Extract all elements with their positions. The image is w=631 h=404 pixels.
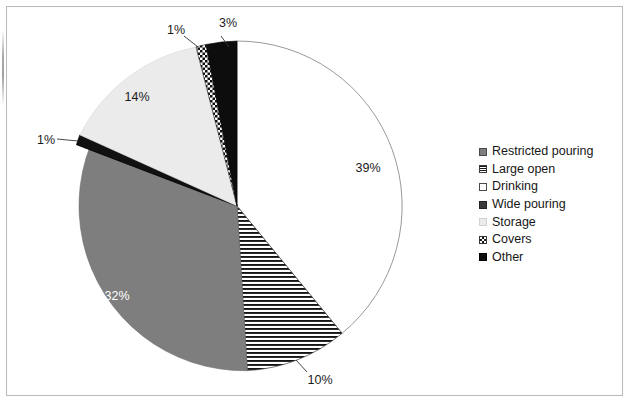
leader-line-large-open (296, 360, 307, 372)
pie-label-restricted-pouring: 32% (104, 289, 129, 303)
legend-label-wide-pouring: Wide pouring (492, 198, 566, 211)
legend-label-large-open: Large open (492, 163, 555, 176)
legend-item-storage[interactable]: Storage (479, 213, 625, 231)
legend-swatch-large-open-icon (479, 165, 487, 173)
legend-label-other: Other (492, 251, 523, 264)
leader-line-covers (184, 36, 198, 47)
legend-item-drinking[interactable]: Drinking (479, 178, 625, 196)
leader-line-wide-pouring (57, 139, 78, 141)
legend-item-restricted-pouring[interactable]: Restricted pouring (479, 143, 625, 161)
legend-label-drinking: Drinking (492, 180, 538, 193)
pie-label-covers: 1% (167, 23, 185, 37)
legend-swatch-wide-pouring-icon (479, 201, 487, 209)
legend-swatch-restricted-pouring-icon (479, 148, 487, 156)
legend-swatch-storage-icon (479, 218, 487, 226)
legend-swatch-covers-icon (479, 236, 487, 244)
legend-item-wide-pouring[interactable]: Wide pouring (479, 196, 625, 214)
pie-label-storage: 14% (124, 90, 149, 104)
legend-label-covers: Covers (492, 233, 532, 246)
legend-item-covers[interactable]: Covers (479, 231, 625, 249)
pie-label-drinking: 39% (355, 161, 380, 175)
legend-label-storage: Storage (492, 216, 536, 229)
pie-label-wide-pouring: 1% (37, 133, 55, 147)
legend-item-other[interactable]: Other (479, 249, 625, 267)
legend-swatch-other-icon (479, 253, 487, 261)
legend-swatch-drinking-icon (479, 183, 487, 191)
pie-label-other: 3% (219, 16, 237, 30)
legend-label-restricted-pouring: Restricted pouring (492, 145, 593, 158)
legend-item-large-open[interactable]: Large open (479, 161, 625, 179)
chart-legend: Restricted pouring Large open Drinking W… (479, 143, 625, 266)
pie-label-large-open: 10% (307, 373, 332, 387)
